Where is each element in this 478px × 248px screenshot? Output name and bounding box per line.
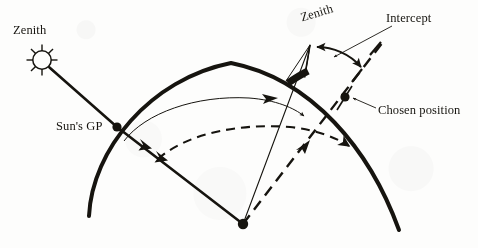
earth-center-dot	[238, 219, 248, 229]
earth-surface-arc	[89, 63, 399, 230]
intercept-measure-arrow	[317, 47, 361, 67]
label-zenith-sun: Zenith	[13, 24, 46, 37]
gp-ray-arrowheads	[139, 139, 169, 163]
label-chosen-position: Chosen position	[378, 104, 460, 117]
intercept-diagram-figure: Zenith Zenith Intercept Chosen position …	[0, 0, 478, 248]
suns-gp-dot	[112, 122, 121, 131]
intercept-label-leader	[334, 26, 392, 57]
observed-zenith-distance-arc	[158, 126, 349, 159]
chosen-position-tick	[337, 86, 352, 110]
gp-to-earth-center-line	[117, 127, 243, 224]
label-suns-gp: Sun's GP	[56, 120, 102, 133]
chosen-position-label-leader	[353, 98, 376, 108]
label-intercept: Intercept	[386, 12, 431, 25]
